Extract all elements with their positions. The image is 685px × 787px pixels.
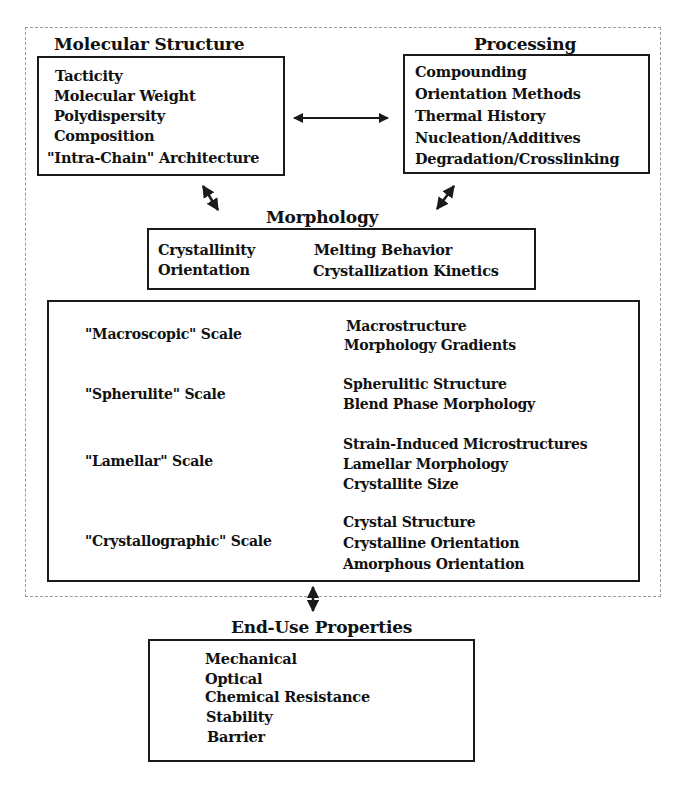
double-arrow-processing-morphology [437, 186, 454, 209]
double-arrow-structure-morphology [203, 186, 218, 210]
connector-arrows [0, 0, 685, 787]
